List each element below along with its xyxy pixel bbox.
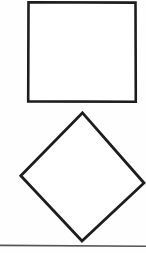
geometry-figure-canvas [0, 0, 146, 253]
upright-square-shape [28, 2, 136, 102]
horizontal-separator-rule [0, 245, 146, 246]
figure-page: A square above a diamond (square rotated… [0, 0, 146, 253]
